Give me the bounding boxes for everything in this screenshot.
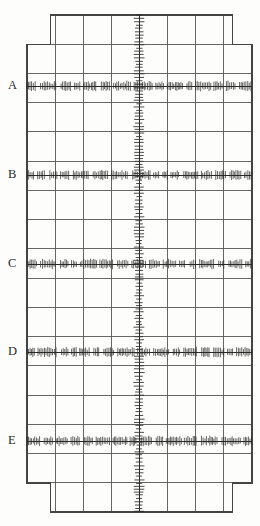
chart-background [0, 0, 260, 526]
chart-plot-area [0, 0, 260, 526]
trace-label-a: A [8, 79, 17, 92]
seismogram-chart: A B C D E [0, 0, 260, 526]
trace-label-b: B [8, 168, 17, 181]
trace-label-c: C [8, 257, 17, 270]
trace-label-d: D [8, 345, 17, 358]
trace-label-e: E [8, 434, 16, 447]
